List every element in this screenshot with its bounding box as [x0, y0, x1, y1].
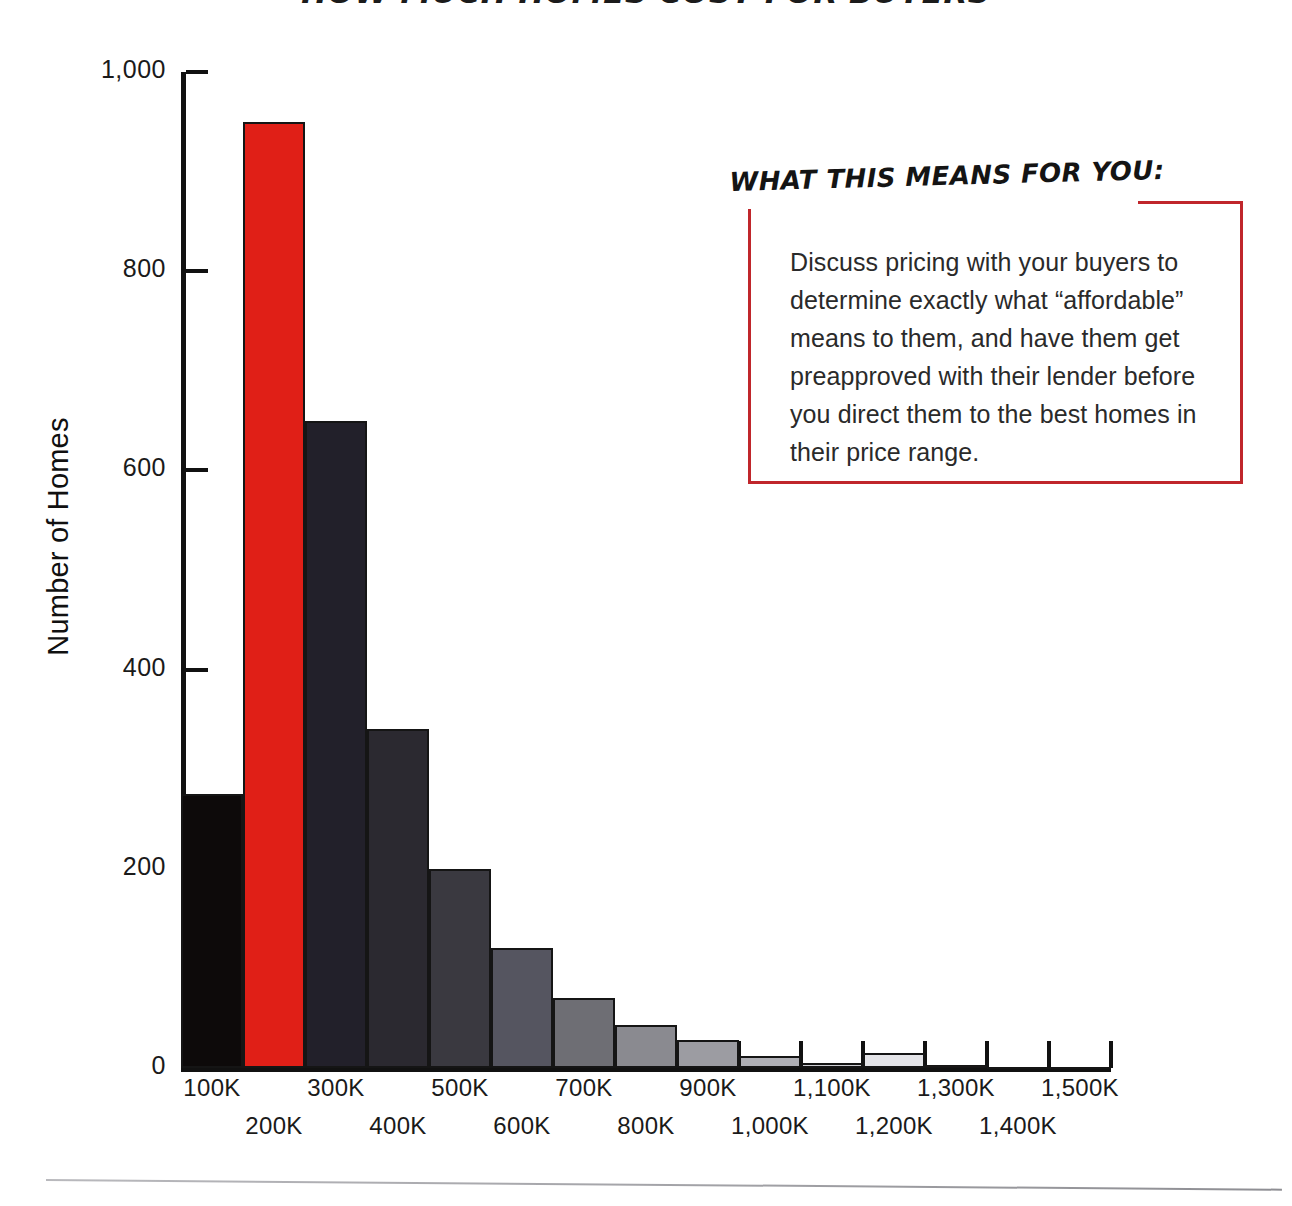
y-axis-title: Number of Homes	[42, 407, 75, 667]
y-axis-tick-label: 1,000	[56, 55, 166, 84]
bar	[677, 1040, 739, 1068]
bar	[181, 794, 243, 1068]
x-axis-tick-label: 400K	[328, 1112, 468, 1140]
bar	[925, 1065, 987, 1068]
bar	[739, 1056, 801, 1068]
x-axis-tick-label: 100K	[142, 1074, 282, 1102]
x-axis-tick-label: 600K	[452, 1112, 592, 1140]
x-axis-tick-label: 900K	[638, 1074, 778, 1102]
y-axis-tick-label: 400	[56, 653, 166, 682]
x-axis-tick-label: 1,400K	[948, 1112, 1088, 1140]
x-axis-tick-label: 1,000K	[700, 1112, 840, 1140]
bar	[801, 1063, 863, 1068]
x-axis-tick-label: 1,300K	[886, 1074, 1026, 1102]
x-axis-tick-label: 500K	[390, 1074, 530, 1102]
bar	[863, 1053, 925, 1068]
x-axis-tick-label: 800K	[576, 1112, 716, 1140]
x-axis-tick-label: 700K	[514, 1074, 654, 1102]
callout-panel: WHAT THIS MEANS FOR YOU: Discuss pricing…	[748, 201, 1243, 484]
bar	[491, 948, 553, 1068]
page-title: HOW MUCH HOMES COST FOR BUYERS	[0, 0, 1292, 10]
y-axis-tick-label: 600	[56, 453, 166, 482]
bar	[305, 421, 367, 1068]
y-axis-tick	[186, 668, 208, 672]
x-axis-tick-label: 1,100K	[762, 1074, 902, 1102]
y-axis-tick-label: 800	[56, 254, 166, 283]
y-axis-tick	[186, 269, 208, 273]
bar	[243, 122, 305, 1068]
callout-body-text: Discuss pricing with your buyers to dete…	[790, 243, 1220, 471]
bar	[615, 1025, 677, 1068]
x-axis-tick-label: 300K	[266, 1074, 406, 1102]
bar	[429, 869, 491, 1068]
bar	[367, 729, 429, 1068]
page-divider	[46, 1179, 1282, 1191]
x-axis-tick-label: 200K	[204, 1112, 344, 1140]
x-axis-tick	[1047, 1041, 1051, 1068]
x-axis-tick	[1109, 1041, 1113, 1068]
bar	[1049, 1067, 1111, 1069]
x-axis-tick	[985, 1041, 989, 1068]
x-axis-tick-label: 1,200K	[824, 1112, 964, 1140]
bar	[553, 998, 615, 1068]
y-axis-tick-label: 200	[56, 852, 166, 881]
x-axis-tick-label: 1,500K	[1010, 1074, 1150, 1102]
bar	[987, 1067, 1049, 1069]
y-axis-tick	[186, 468, 208, 472]
y-axis-tick	[186, 70, 208, 74]
